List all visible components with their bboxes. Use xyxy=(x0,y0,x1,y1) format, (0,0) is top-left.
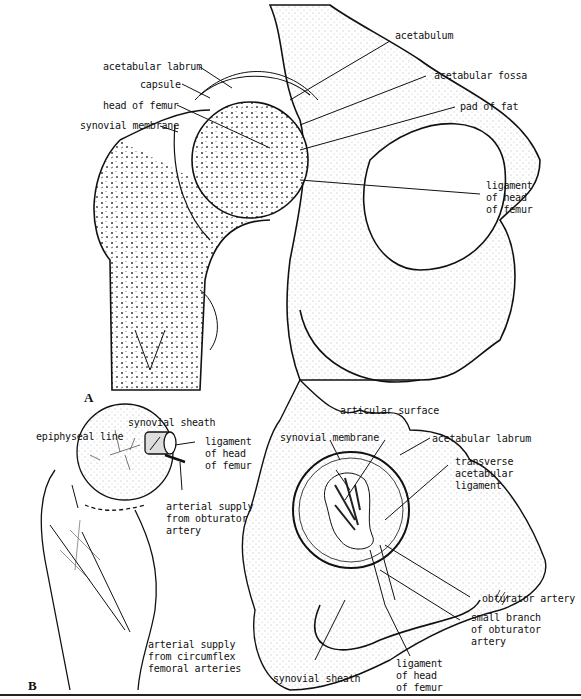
label-acetabular-labrum-b: acetabular labrum xyxy=(432,433,531,445)
label-synovial-membrane-a: synovial membrane xyxy=(80,120,179,132)
label-acetabulum: acetabulum xyxy=(395,30,453,42)
label-arterial-supply-obturator: arterial supply from obturator artery xyxy=(166,501,253,537)
label-synovial-sheath-top: synovial sheath xyxy=(128,417,215,429)
label-synovial-membrane-b: synovial membrane xyxy=(280,432,379,444)
label-articular-surface: articular surface xyxy=(340,405,439,417)
label-head-of-femur: head of femur xyxy=(103,100,179,112)
label-epiphyseal-line: epiphyseal line xyxy=(36,431,123,443)
label-acetabular-labrum: acetabular labrum xyxy=(103,61,202,73)
label-arterial-supply-circumflex: arterial supply from circumflex femoral … xyxy=(148,639,241,675)
panel-letter-a: A xyxy=(84,390,93,406)
label-synovial-sheath-bottom: synovial sheath xyxy=(273,673,360,685)
hip-joint-anatomy-figure: acetabulum acetabular labrum acetabular … xyxy=(0,0,581,699)
label-transverse-acetabular-ligament: transverse acetabular ligament xyxy=(455,456,513,492)
label-obturator-artery: obturator artery xyxy=(482,593,575,605)
label-ligament-of-head-of-femur-b-left: ligament of head of femur xyxy=(205,436,252,472)
label-pad-of-fat: pad of fat xyxy=(460,101,518,113)
label-ligament-of-head-of-femur-b-bottom: ligament of head of femur xyxy=(396,658,443,694)
label-ligament-of-head-of-femur-a: ligament of head of femur xyxy=(486,180,533,216)
panel-letter-b: B xyxy=(28,678,37,694)
label-capsule: capsule xyxy=(140,79,181,91)
label-acetabular-fossa: acetabular fossa xyxy=(434,70,527,82)
label-small-branch-obturator: small branch of obturator artery xyxy=(471,612,541,648)
bottom-rule xyxy=(0,694,581,696)
